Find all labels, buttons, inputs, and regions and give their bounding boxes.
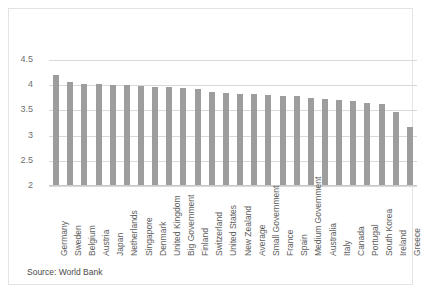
x-axis-tick-label: United States [229,205,238,256]
y-axis-tick-label: 2 [1,181,33,190]
x-axis-tick-label: Austria [102,230,111,256]
bar[interactable] [166,87,172,186]
x-axis-tick-label: Medium Government [314,177,323,256]
x-axis-tick-label: Average [258,224,267,256]
x-axis-tick-label: France [286,230,295,256]
bar-slot [251,60,257,186]
bar-slot [53,60,59,186]
bar-slot [393,60,399,186]
bar-slot [237,60,243,186]
x-axis-tick-label: Singapore [145,217,154,256]
bar[interactable] [67,82,73,186]
x-axis-tick-label: Australia [329,223,338,256]
x-axis-tick-label: Italy [343,240,352,256]
bar[interactable] [251,94,257,186]
bar-slot [138,60,144,186]
x-axis-tick-label: Greece [413,228,421,256]
bar-slot [223,60,229,186]
bar-slot [152,60,158,186]
bar-slot [166,60,172,186]
y-axis-tick-label: 2.5 [1,156,33,165]
x-axis-tick-label: Netherlands [130,210,139,256]
x-axis-tick-label: Ireland [399,230,408,256]
bar[interactable] [124,85,130,186]
bar-slot [280,60,286,186]
x-axis-tick-label: South Korea [385,209,394,256]
bar-slot [180,60,186,186]
bar-slot [379,60,385,186]
bar-slot [350,60,356,186]
bar-slot [407,60,413,186]
y-axis-tick-label: 3.5 [1,105,33,114]
bar[interactable] [265,95,271,186]
y-axis-tick-label: 4.5 [1,55,33,64]
chart-figure: 22.533.544.5 GermanySwedenBelgiumAustria… [0,0,421,293]
bar-slot [308,60,314,186]
x-axis-tick-label: United Kingdom [173,196,182,256]
x-axis-labels: GermanySwedenBelgiumAustriaJapanNetherla… [49,188,417,260]
bar[interactable] [138,86,144,186]
x-axis-tick-label: Big Government [187,195,196,256]
bar-slot [364,60,370,186]
bar[interactable] [350,101,356,186]
y-axis-tick-label: 3 [1,131,33,140]
plot-area: 22.533.544.5 [49,60,417,186]
bar[interactable] [280,96,286,186]
bar[interactable] [110,85,116,186]
x-axis-tick-label: Japan [116,233,125,256]
x-axis-tick-label: Portugal [371,224,380,256]
x-axis-tick-label: New Zealand [244,206,253,256]
bar[interactable] [152,87,158,186]
x-axis-tick-label: Canada [357,226,366,256]
bar[interactable] [180,88,186,186]
x-axis-tick-label: Small Government [272,186,281,256]
bar-slot [110,60,116,186]
x-axis-line [49,185,417,186]
bar-slot [209,60,215,186]
x-axis-tick-label: Sweden [74,225,83,256]
x-axis-tick-label: Denmark [159,222,168,256]
x-axis-tick-label: Finland [201,228,210,256]
bar-slot [336,60,342,186]
bars-group [49,60,417,186]
bar-slot [322,60,328,186]
bar[interactable] [195,89,201,186]
bar-slot [124,60,130,186]
bar-slot [195,60,201,186]
bar[interactable] [322,99,328,186]
bar[interactable] [53,75,59,186]
x-axis-tick-label: Switzerland [215,212,224,256]
bar[interactable] [96,84,102,186]
bar[interactable] [393,112,399,186]
source-note: Source: World Bank [27,267,102,277]
x-axis-tick-label: Germany [60,221,69,256]
bar[interactable] [209,92,215,186]
bar-slot [67,60,73,186]
gridline [49,186,417,187]
bar[interactable] [81,84,87,186]
bar[interactable] [294,96,300,186]
bar[interactable] [237,94,243,186]
x-axis-tick-label: Spain [300,234,309,256]
bar[interactable] [336,100,342,186]
x-axis-tick-label: Belgium [88,225,97,256]
bar-slot [96,60,102,186]
bar[interactable] [379,104,385,186]
bar-slot [265,60,271,186]
bar-slot [81,60,87,186]
bar[interactable] [308,98,314,186]
bar[interactable] [223,93,229,186]
chart-frame: 22.533.544.5 GermanySwedenBelgiumAustria… [8,8,413,285]
bar[interactable] [364,103,370,186]
y-axis-tick-label: 4 [1,80,33,89]
bar-slot [294,60,300,186]
bar[interactable] [407,127,413,186]
